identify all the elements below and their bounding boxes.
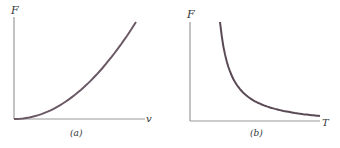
panel-b: F T (b) — [186, 8, 330, 138]
caption-a: (a) — [70, 128, 83, 138]
panel-a: F v (a) — [10, 4, 152, 138]
caption-b: (b) — [250, 128, 263, 138]
figure: F v (a) F T (b) — [0, 0, 340, 148]
x-label-a: v — [146, 113, 152, 124]
curve-a — [14, 22, 136, 119]
curve-b — [220, 22, 320, 116]
y-label-b: F — [186, 8, 195, 21]
x-label-b: T — [322, 117, 330, 128]
y-label-a: F — [10, 4, 19, 17]
